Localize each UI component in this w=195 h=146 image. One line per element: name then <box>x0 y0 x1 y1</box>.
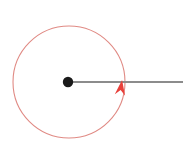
background-plate <box>0 0 195 146</box>
diagram-svg <box>0 0 195 146</box>
figure-canvas <box>0 0 195 146</box>
center-point-dot <box>63 77 73 87</box>
